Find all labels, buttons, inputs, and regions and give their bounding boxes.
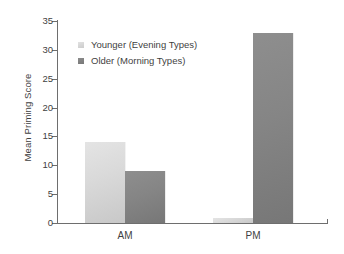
x-axis-end-tick: [327, 219, 328, 224]
x-axis-tick-label-am: AM: [95, 230, 155, 241]
legend-swatch-younger-icon: [78, 42, 84, 48]
legend-label-younger: Younger (Evening Types): [91, 39, 197, 50]
y-axis-tick-label: 35: [42, 15, 53, 26]
y-axis-title: Mean Priming Score: [22, 38, 33, 198]
y-axis-tick-label: 20: [42, 102, 53, 113]
y-axis-tick-label: 15: [42, 130, 53, 141]
y-axis-tick-label: 0: [48, 217, 53, 228]
bar-am-younger: [85, 142, 126, 223]
y-axis-tick-label: 5: [48, 188, 53, 199]
bar-pm-older: [253, 33, 294, 223]
bar-pm-younger: [213, 218, 254, 223]
legend-item-older: Older (Morning Types): [78, 54, 197, 67]
bar-chart-figure: Mean Priming Score 05101520253035 AMPM Y…: [0, 0, 344, 254]
legend-swatch-older-icon: [78, 58, 84, 64]
x-axis-tick-label-pm: PM: [223, 230, 283, 241]
bar-am-older: [125, 171, 166, 223]
y-axis-tick-label: 25: [42, 73, 53, 84]
chart-legend: Younger (Evening Types) Older (Morning T…: [78, 38, 197, 70]
y-axis-tick-label: 10: [42, 159, 53, 170]
legend-item-younger: Younger (Evening Types): [78, 38, 197, 51]
legend-label-older: Older (Morning Types): [91, 55, 185, 66]
x-axis-line: [57, 223, 328, 224]
y-axis-line: [57, 20, 58, 224]
y-axis-tick-label: 30: [42, 44, 53, 55]
